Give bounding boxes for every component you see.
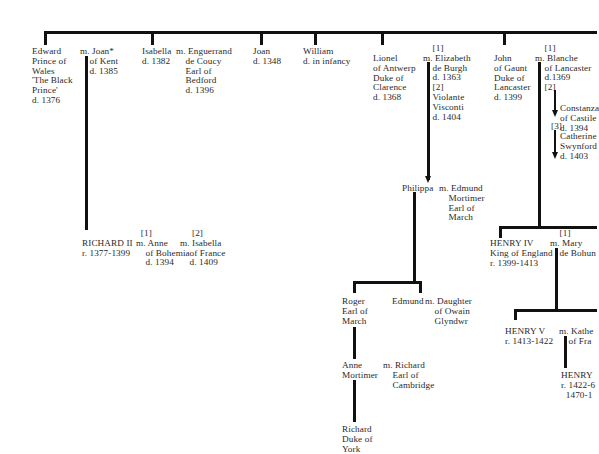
drop-henry4 bbox=[499, 226, 502, 238]
drop-roger bbox=[353, 281, 356, 293]
line-constanza bbox=[554, 90, 556, 112]
person-richard-duke-of-york: Richard Duke of York bbox=[342, 425, 373, 454]
spouse-isabella-of-france: [2] m. Isabella of France d. 1409 bbox=[180, 229, 225, 268]
line-roger-to-anne bbox=[353, 327, 356, 359]
spouse-blanche-of-lancaster: [1] m. Blanche of Lancaster d.1369 [2] bbox=[535, 44, 591, 93]
line-henry4-to-henry5 bbox=[555, 248, 558, 312]
drop-edward bbox=[44, 31, 47, 45]
drop-joan bbox=[260, 31, 263, 45]
drop-isabella bbox=[151, 31, 154, 45]
arrow-down-icon bbox=[425, 176, 431, 183]
spouse-enguerrand-de-coucy: m. Enguerrand de Coucy Earl of Bedford d… bbox=[176, 47, 232, 96]
line-philippa-to-children bbox=[413, 192, 416, 284]
line-anne-to-richard-york bbox=[353, 380, 356, 422]
person-isabella: Isabella d. 1382 bbox=[142, 47, 171, 67]
drop-john bbox=[503, 31, 506, 45]
person-anne-mortimer: Anne Mortimer bbox=[342, 361, 378, 381]
person-henry-iv: HENRY IV King of England r. 1399-1413 bbox=[490, 239, 553, 268]
spouse-richard-earl-of-cambridge: m. Richard Earl of Cambridge bbox=[383, 361, 434, 390]
arrow-down-icon bbox=[552, 110, 558, 117]
person-edmund: Edmund bbox=[392, 297, 424, 307]
person-richard-ii: RICHARD II r. 1377-1399 bbox=[82, 239, 133, 259]
line-lionel-to-philippa bbox=[427, 62, 430, 180]
line-john-to-henry4 bbox=[538, 62, 541, 228]
drop-lionel bbox=[381, 31, 384, 45]
line-catherine bbox=[554, 130, 556, 154]
top-sibling-bar bbox=[44, 31, 597, 34]
person-john-of-gaunt: John of Gaunt Duke of Lancaster d. 1399 bbox=[494, 54, 531, 103]
bar-henry4-children bbox=[514, 309, 597, 312]
spouse-edmund-mortimer: m. Edmund Mortimer Earl of March bbox=[439, 184, 485, 223]
person-edward-black-prince: Edward Prince of Wales 'The Black Prince… bbox=[32, 47, 73, 106]
person-philippa: Philippa bbox=[402, 184, 433, 194]
person-joan: Joan d. 1348 bbox=[253, 47, 281, 67]
person-henry-vi: HENRY r. 1422-6 1470-1 bbox=[561, 371, 595, 400]
line-henry5-to-henry6 bbox=[564, 336, 567, 368]
bar-philippa-children bbox=[353, 281, 421, 284]
drop-william bbox=[314, 31, 317, 45]
spouse-constanza-of-castile: Constanza of Castile d. 1394 bbox=[560, 104, 599, 133]
drop-edmund bbox=[419, 281, 422, 293]
line-edward-to-richard bbox=[85, 56, 88, 230]
person-william: William d. in infancy bbox=[303, 47, 350, 67]
arrow-down-icon bbox=[552, 152, 558, 159]
drop-henry5 bbox=[514, 309, 517, 320]
spouse-daughter-of-owain-glyndwr: m. Daughter of Owain Glyndwr bbox=[425, 297, 472, 326]
person-roger-earl-of-march: Roger Earl of March bbox=[342, 297, 368, 326]
spouse-catherine-swynford: Catherine Swynford d. 1403 bbox=[560, 132, 597, 161]
person-lionel-of-antwerp: Lionel of Antwerp Duke of Clarence d. 13… bbox=[373, 54, 416, 103]
spouses-lionel: [1] m. Elizabeth de Burgh d. 1363 [2] Vi… bbox=[423, 44, 471, 122]
person-henry-v: HENRY V r. 1413-1422 bbox=[505, 327, 553, 347]
